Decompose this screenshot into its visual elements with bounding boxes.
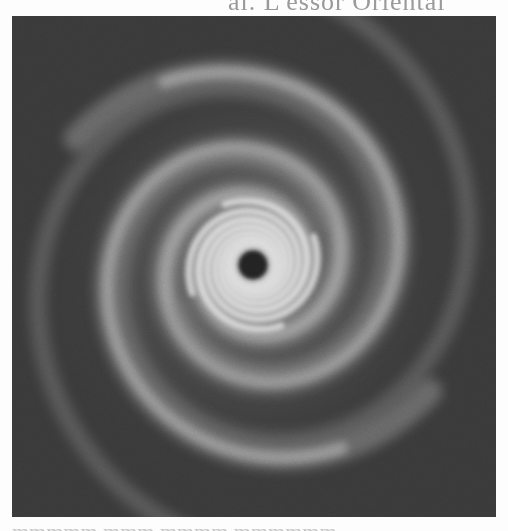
spiral-image [12, 16, 496, 517]
document-page: al. L'essor Oriental [0, 0, 508, 531]
cropped-header-text: al. L'essor Oriental [228, 0, 508, 13]
cropped-footer-text: mmmmm mmm mmmm mmmmmm [12, 521, 496, 531]
spiral-figure [12, 16, 496, 517]
